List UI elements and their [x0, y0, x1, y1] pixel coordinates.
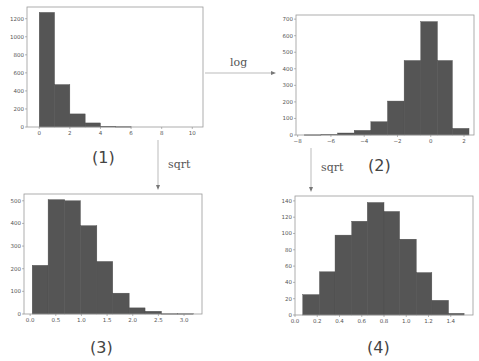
caption-plot1: (1)	[92, 148, 115, 167]
histogram-bar	[452, 128, 469, 135]
histogram-bar	[319, 272, 335, 315]
y-tick-label: 0	[290, 132, 294, 138]
histogram-bar	[97, 261, 113, 314]
histogram-bar	[70, 114, 85, 127]
x-tick-label: 1.0	[77, 317, 86, 323]
sqrt-arrow-right-label: sqrt	[321, 161, 344, 174]
x-tick-label: 0.6	[357, 318, 366, 324]
sqrt-arrow-right: sqrt	[309, 148, 344, 192]
x-tick-label: 6	[129, 130, 133, 136]
histogram-bar	[354, 130, 371, 135]
histogram-bar	[384, 211, 400, 315]
log-arrow-label: log	[230, 56, 247, 69]
y-tick-label: 200	[14, 106, 25, 112]
y-tick-label: 800	[14, 52, 25, 58]
x-tick-label: 3.0	[180, 317, 189, 323]
y-tick-label: 400	[11, 220, 22, 226]
histogram-bar	[404, 61, 421, 135]
x-tick-label: 2	[462, 138, 466, 144]
y-tick-label: 600	[14, 70, 25, 76]
y-tick-label: 200	[283, 99, 294, 105]
sqrt-arrow-left: sqrt	[156, 140, 191, 190]
y-tick-label: 100	[283, 115, 294, 121]
plot1-histogram: 0246810020040060080010001200	[10, 7, 203, 136]
histogram-bar	[437, 61, 452, 135]
histogram-bar	[65, 201, 81, 314]
y-tick-label: 400	[283, 66, 294, 72]
y-tick-label: 120	[282, 214, 293, 220]
x-tick-label: 2.0	[128, 317, 137, 323]
x-tick-label: 0.4	[335, 318, 344, 324]
plot2-histogram: −8−6−4−2020100200300400500600700	[283, 15, 475, 144]
caption-plot4: (4)	[367, 338, 390, 357]
x-tick-label: 2.5	[154, 317, 163, 323]
y-tick-label: 1200	[10, 16, 24, 22]
histogram-bar	[432, 300, 449, 315]
histogram-bar	[129, 308, 145, 314]
y-tick-label: 600	[283, 33, 294, 39]
histogram-bar	[80, 226, 96, 314]
y-tick-label: 100	[11, 288, 22, 294]
histogram-bar	[55, 85, 70, 127]
histogram-bar	[371, 122, 388, 135]
x-tick-label: 0	[429, 138, 433, 144]
histogram-bar	[39, 12, 54, 127]
histogram-bar	[85, 123, 100, 127]
y-tick-label: 500	[11, 198, 22, 204]
histogram-bar	[48, 200, 64, 314]
x-tick-label: −6	[327, 138, 336, 144]
y-tick-label: 300	[283, 82, 294, 88]
log-arrow: log	[205, 56, 276, 75]
x-tick-label: 4	[99, 130, 103, 136]
y-tick-label: 0	[289, 312, 293, 318]
histogram-bar	[367, 203, 384, 315]
histogram-bar	[421, 22, 438, 135]
y-tick-label: 200	[11, 266, 22, 272]
y-tick-label: 0	[18, 311, 22, 317]
figure-canvas: log sqrt sqrt (1) (2) (3) (4) 0246810020…	[0, 0, 479, 361]
x-tick-label: 0.0	[291, 318, 300, 324]
y-tick-label: 500	[283, 49, 294, 55]
plot3-histogram: 0.00.51.01.52.02.53.00100200300400500	[11, 194, 203, 323]
histogram-panels: 0246810020040060080010001200−8−6−4−20201…	[10, 7, 474, 324]
x-tick-label: 2	[68, 130, 72, 136]
histogram-bar	[335, 235, 352, 315]
histogram-bar	[145, 311, 161, 314]
caption-plot2: (2)	[368, 156, 391, 175]
x-tick-label: −2	[393, 138, 401, 144]
x-tick-label: −4	[360, 138, 369, 144]
x-tick-label: 0.0	[26, 317, 35, 323]
sqrt-arrow-left-label: sqrt	[168, 158, 191, 171]
y-tick-label: 100	[282, 230, 293, 236]
x-tick-label: 1.0	[402, 318, 411, 324]
y-tick-label: 80	[285, 247, 292, 253]
x-tick-label: 1.2	[424, 318, 433, 324]
y-tick-label: 300	[11, 243, 22, 249]
y-tick-label: 0	[21, 124, 25, 130]
x-tick-label: 0.2	[313, 318, 322, 324]
histogram-bar	[416, 273, 432, 315]
x-tick-label: 1.4	[446, 318, 455, 324]
x-tick-label: 0.8	[380, 318, 389, 324]
histogram-bar	[303, 295, 320, 315]
histogram-bar	[352, 221, 368, 315]
y-tick-label: 140	[282, 198, 293, 204]
caption-plot3: (3)	[90, 338, 113, 357]
histogram-bar	[32, 265, 48, 314]
x-tick-label: 8	[160, 130, 164, 136]
x-tick-label: 0	[37, 130, 41, 136]
x-tick-label: 1.5	[103, 317, 112, 323]
histogram-bar	[400, 239, 417, 315]
y-tick-label: 1000	[10, 34, 24, 40]
y-tick-label: 60	[285, 263, 292, 269]
y-tick-label: 20	[285, 296, 292, 302]
x-tick-label: 0.5	[51, 317, 60, 323]
x-tick-label: 10	[189, 130, 196, 136]
x-tick-label: −8	[294, 138, 303, 144]
plot4-histogram: 0.00.20.40.60.81.01.21.40204060801001201…	[282, 196, 474, 324]
histogram-bar	[113, 293, 129, 314]
y-tick-label: 40	[285, 279, 292, 285]
y-tick-label: 700	[283, 16, 294, 22]
histogram-bar	[387, 101, 404, 135]
y-tick-label: 400	[14, 88, 25, 94]
